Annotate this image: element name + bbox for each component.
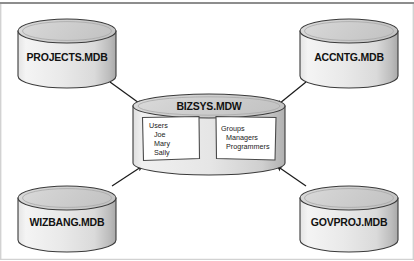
users-box-line-0: Users	[149, 121, 168, 130]
users-box[interactable]: Users Joe Mary Sally	[143, 117, 200, 161]
db-cylinder-govproj-mdb[interactable]: GOVPROJ.MDB	[300, 186, 398, 252]
projects-cylinder-label: PROJECTS.MDB	[26, 51, 108, 63]
users-box-line-1: Joe	[154, 130, 166, 139]
govproj-cylinder-top	[300, 186, 398, 210]
groups-box-line-0: Groups	[221, 124, 245, 133]
diagram-canvas: PROJECTS.MDB ACCNTG.MDB WIZBANG.MDB GOVP…	[0, 0, 414, 261]
db-cylinder-projects-mdb[interactable]: PROJECTS.MDB	[18, 19, 116, 88]
db-cylinder-accntg-mdb[interactable]: ACCNTG.MDB	[300, 19, 398, 88]
db-cylinder-wizbang-mdb[interactable]: WIZBANG.MDB	[18, 186, 116, 252]
wizbang-cylinder-label: WIZBANG.MDB	[30, 216, 105, 228]
groups-box-line-1: Managers	[226, 133, 258, 142]
govproj-cylinder-label: GOVPROJ.MDB	[311, 216, 388, 228]
db-cylinder-bizsys-mdw[interactable]: BIZSYS.MDW Users Joe Mary Sally Groups M…	[133, 94, 285, 175]
bizsys-cylinder-label: BIZSYS.MDW	[176, 100, 241, 112]
database-relationship-diagram: PROJECTS.MDB ACCNTG.MDB WIZBANG.MDB GOVP…	[0, 0, 414, 261]
users-box-line-2: Mary	[154, 139, 170, 148]
projects-cylinder-top	[18, 19, 116, 43]
users-box-line-3: Sally	[154, 148, 170, 157]
groups-box[interactable]: Groups Managers Programmers	[216, 117, 276, 161]
accntg-cylinder-label: ACCNTG.MDB	[314, 51, 384, 63]
groups-box-line-2: Programmers	[226, 142, 270, 151]
accntg-cylinder-top	[300, 19, 398, 43]
wizbang-cylinder-top	[18, 186, 116, 210]
